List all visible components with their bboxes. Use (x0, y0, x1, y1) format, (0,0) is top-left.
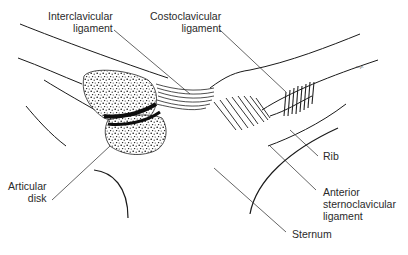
anterior-sternoclavicular-fibers (214, 96, 270, 130)
leader-lines (52, 30, 318, 232)
label-line: ligament (150, 22, 221, 34)
label-articular-disk: Articular disk (8, 180, 47, 204)
label-costoclavicular-ligament: Costoclavicular ligament (150, 10, 221, 34)
costoclavicular-fibers (284, 82, 314, 116)
label-line: Interclavicular (48, 10, 113, 22)
label-sternum: Sternum (292, 228, 332, 240)
label-line: Costoclavicular (150, 10, 221, 22)
label-interclavicular-ligament: Interclavicular ligament (48, 10, 113, 34)
artist-signature: w.p. (356, 64, 364, 69)
interclavicular-ligament-fibers (156, 84, 214, 110)
label-line: Anterior (323, 186, 396, 198)
label-line: Articular (8, 180, 47, 192)
label-line: disk (8, 192, 47, 204)
label-anterior-sternoclavicular-ligament: Anterior sternoclavicular ligament (323, 186, 396, 222)
label-line: ligament (48, 22, 113, 34)
clavicle-head (83, 70, 156, 121)
label-line: sternoclavicular (323, 198, 396, 210)
label-rib: Rib (323, 150, 339, 162)
label-line: ligament (323, 210, 396, 222)
